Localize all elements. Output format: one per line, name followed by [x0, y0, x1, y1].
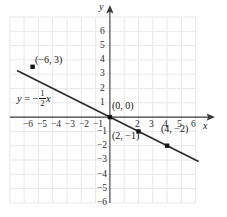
equation-variable: x	[46, 93, 51, 104]
y-tick-3: 3	[100, 69, 105, 79]
y-tick-1: 1	[100, 98, 105, 108]
x-tick-neg2: −2	[79, 120, 89, 130]
equation-fraction: 12	[39, 89, 45, 108]
x-tick-neg4: −4	[51, 120, 61, 130]
point-label-4-neg2: (4, −2)	[161, 124, 188, 134]
y-tick-4: 4	[100, 55, 105, 65]
y-tick-neg6: −6	[97, 198, 107, 208]
y-tick-neg1: −1	[97, 127, 107, 137]
y-tick-neg3: −3	[97, 155, 107, 165]
point-label-origin: (0, 0)	[112, 101, 134, 111]
point-label-2-neg1: (2, −1)	[112, 131, 139, 141]
equation-numerator: 1	[39, 89, 45, 98]
x-axis-label: x	[203, 121, 207, 131]
equation-equals: =	[24, 93, 30, 104]
equation-sign: −	[33, 93, 39, 104]
x-tick-neg5: −5	[37, 120, 47, 130]
equation-lhs: y	[17, 93, 22, 104]
y-axis-label: y	[99, 2, 103, 12]
y-tick-2: 2	[100, 84, 105, 94]
x-tick-2: 2	[135, 120, 140, 130]
equation-label: y = −12x	[17, 89, 51, 108]
x-tick-6: 6	[191, 120, 196, 130]
y-tick-5: 5	[100, 41, 105, 51]
y-tick-neg5: −5	[97, 184, 107, 194]
point-label-neg6-3: (−6, 3)	[35, 55, 62, 65]
point-marker-origin	[108, 115, 112, 119]
x-tick-neg3: −3	[65, 120, 75, 130]
graph-figure: x y −6 −5 −4 −3 −2 −1 2 3 4 5 6 1 2 3 4 …	[0, 0, 227, 217]
equation-denominator: 2	[39, 98, 45, 108]
x-tick-3: 3	[149, 120, 154, 130]
point-marker-neg6-3	[30, 65, 34, 69]
y-tick-neg2: −2	[97, 141, 107, 151]
x-tick-neg6: −6	[23, 120, 33, 130]
y-tick-6: 6	[100, 27, 105, 37]
y-tick-neg4: −4	[97, 170, 107, 180]
point-marker-4-neg2	[165, 144, 169, 148]
